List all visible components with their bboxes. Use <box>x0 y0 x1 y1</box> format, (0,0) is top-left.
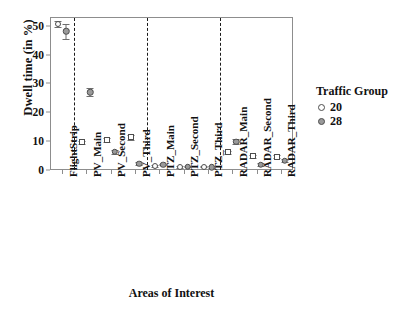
legend-item-20[interactable]: 20 <box>316 100 388 114</box>
data-point <box>282 158 289 165</box>
error-bar-cap <box>63 24 70 25</box>
legend-item-28[interactable]: 28 <box>316 114 388 128</box>
error-bar-cap <box>55 27 62 28</box>
data-point <box>152 163 158 169</box>
error-bar-cap <box>87 96 94 97</box>
legend: Traffic Group 20 28 <box>316 84 388 128</box>
data-point <box>112 149 119 156</box>
legend-label-20: 20 <box>330 101 342 113</box>
data-point <box>274 154 280 160</box>
data-point <box>136 160 143 167</box>
data-point <box>79 139 85 145</box>
open-circle-marker-icon <box>318 104 325 111</box>
error-bar-cap <box>63 39 70 40</box>
legend-title: Traffic Group <box>316 84 388 99</box>
data-point <box>201 164 207 170</box>
data-point <box>257 161 264 168</box>
data-point <box>209 164 216 171</box>
data-point <box>233 138 240 145</box>
chart-figure: Dwell time (in %) Areas of Interest 0102… <box>0 0 401 310</box>
data-point <box>55 21 61 27</box>
data-point <box>225 149 231 155</box>
data-point <box>184 163 191 170</box>
data-point <box>250 153 256 159</box>
data-point <box>177 164 183 170</box>
data-point <box>63 28 70 35</box>
legend-label-28: 28 <box>330 115 342 127</box>
data-points-layer <box>0 0 401 310</box>
data-point <box>160 161 167 168</box>
filled-circle-marker-icon <box>318 118 325 125</box>
data-point <box>87 89 94 96</box>
data-point <box>128 134 134 140</box>
data-point <box>104 137 110 143</box>
